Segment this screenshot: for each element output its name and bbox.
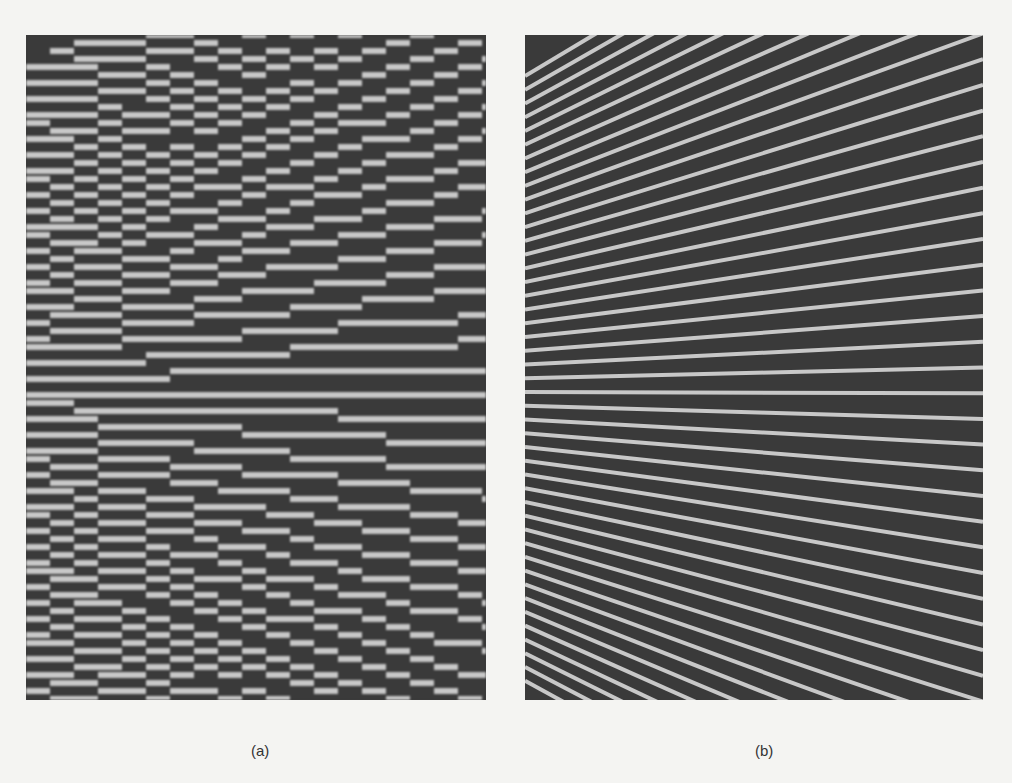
figure-panel-b (525, 35, 983, 700)
caption-b: (b) (755, 742, 773, 759)
antialiased-lines-image (525, 35, 983, 700)
figure-panel-a (26, 35, 486, 700)
caption-a: (a) (251, 742, 269, 759)
aliased-lines-image (26, 35, 486, 700)
